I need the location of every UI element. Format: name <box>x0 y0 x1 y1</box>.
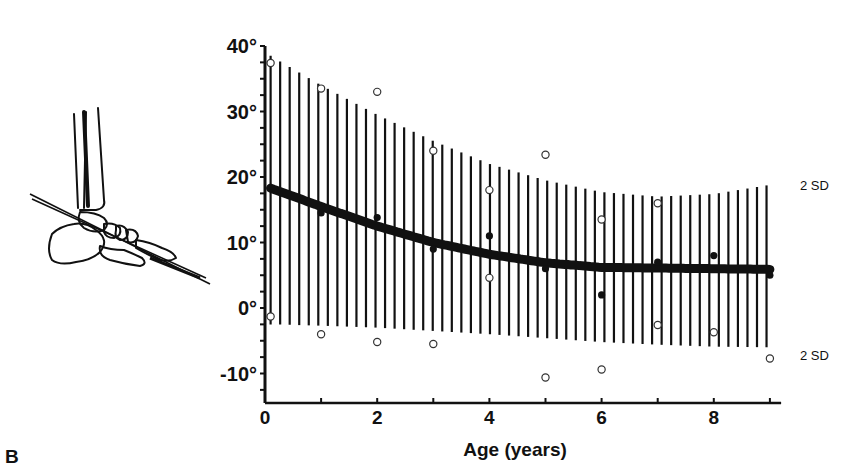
sd-band-hatching <box>271 56 767 347</box>
open-circle-point <box>654 200 661 207</box>
open-circle-point <box>542 151 549 158</box>
open-circle-point <box>267 59 274 66</box>
open-circle-point <box>486 187 493 194</box>
y-tick-label: 10° <box>227 232 257 254</box>
filled-circle-point <box>710 252 717 259</box>
filled-circle-point <box>598 291 605 298</box>
sd-annotation: 2 SD <box>800 348 829 363</box>
open-circle-point <box>267 313 274 320</box>
filled-circle-point <box>318 209 325 216</box>
open-circle-point <box>486 274 493 281</box>
y-tick-label: 0° <box>238 297 257 319</box>
open-circle-point <box>598 366 605 373</box>
open-circle-point <box>598 216 605 223</box>
filled-circle-point <box>374 214 381 221</box>
open-circle-point <box>542 374 549 381</box>
open-circle-point <box>374 88 381 95</box>
chart-plot: 40°30°20°10°0°-10°02468Age (years)2 SD2 … <box>0 0 843 470</box>
open-circle-point <box>710 329 717 336</box>
x-tick-label: 2 <box>372 407 383 428</box>
x-axis-label: Age (years) <box>463 439 567 460</box>
x-tick-label: 4 <box>484 407 495 428</box>
figure: 40°30°20°10°0°-10°02468Age (years)2 SD2 … <box>0 0 843 470</box>
open-circle-point <box>430 340 437 347</box>
mean-curve <box>271 188 770 269</box>
y-tick-label: 20° <box>227 166 257 188</box>
filled-circle-point <box>654 259 661 266</box>
open-circle-point <box>318 85 325 92</box>
y-tick-label: 40° <box>227 35 257 57</box>
y-tick-label: -10° <box>220 363 257 385</box>
filled-circle-point <box>542 265 549 272</box>
open-circle-point <box>374 338 381 345</box>
panel-label: B <box>5 446 19 468</box>
filled-circle-point <box>766 272 773 279</box>
sd-annotation: 2 SD <box>800 178 829 193</box>
filled-circle-point <box>430 245 437 252</box>
open-circle-point <box>654 321 661 328</box>
open-circle-point <box>318 331 325 338</box>
x-tick-label: 6 <box>596 407 607 428</box>
x-tick-label: 8 <box>709 407 720 428</box>
mean-line <box>271 188 770 269</box>
x-tick-label: 0 <box>260 407 271 428</box>
data-points <box>267 59 773 381</box>
filled-circle-point <box>486 232 493 239</box>
y-tick-label: 30° <box>227 101 257 123</box>
open-circle-point <box>430 147 437 154</box>
open-circle-point <box>766 355 773 362</box>
